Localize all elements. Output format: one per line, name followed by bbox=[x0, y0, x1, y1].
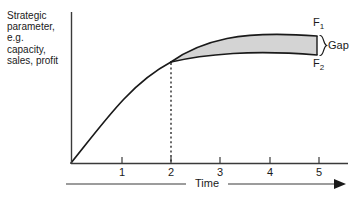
x-axis-ticks bbox=[122, 157, 319, 164]
f1-label-subscript: 1 bbox=[320, 22, 324, 31]
y-axis-label: Strategic parameter, e.g. capacity, sale… bbox=[7, 10, 69, 66]
chart-figure: Strategic parameter, e.g. capacity, sale… bbox=[0, 0, 357, 200]
x-axis-label: Time bbox=[187, 178, 227, 189]
x-tick-label-2: 2 bbox=[161, 167, 181, 178]
x-tick-label-1: 1 bbox=[112, 167, 132, 178]
f2-label-text: F bbox=[313, 57, 320, 69]
f2-label-subscript: 2 bbox=[320, 63, 324, 72]
f1-series-label: F1 bbox=[313, 17, 324, 31]
gap-brace-icon bbox=[320, 36, 327, 56]
x-tick-label-4: 4 bbox=[260, 167, 280, 178]
time-arrowhead-icon bbox=[334, 179, 346, 189]
gap-annotation-label: Gap bbox=[328, 40, 349, 51]
x-tick-label-5: 5 bbox=[309, 167, 329, 178]
base-growth-curve bbox=[71, 62, 171, 163]
f2-series-label: F2 bbox=[313, 58, 324, 72]
f1-label-text: F bbox=[313, 16, 320, 28]
